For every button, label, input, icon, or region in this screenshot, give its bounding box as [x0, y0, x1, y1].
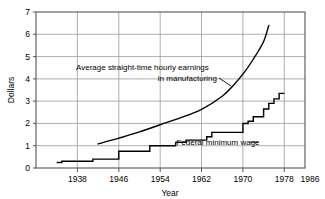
xtick-label-1970: 1970: [233, 174, 252, 184]
earnings-annotation-line1: Average straight-time hourly earnings: [76, 63, 209, 72]
ytick-label-6: 6: [25, 29, 30, 39]
ytick-label-7: 7: [25, 7, 30, 17]
xtick-label-1986: 1986: [301, 174, 320, 184]
xtick-label-1946: 1946: [109, 174, 128, 184]
minimum-wage-annotation: Federal minimum wage: [176, 138, 260, 147]
xtick-label-1962: 1962: [192, 174, 211, 184]
ytick-label-4: 4: [25, 74, 30, 84]
ytick-label-5: 5: [25, 52, 30, 62]
minimum-wage-annotation-text: Federal minimum wage: [176, 138, 260, 147]
earnings-annotation-line2: in manufacturing: [158, 74, 217, 83]
xtick-label-1978: 1978: [275, 174, 294, 184]
x-axis-title: Year: [161, 188, 178, 198]
chart-container: 0 1 2 3 4 5 6 7 1938 1946 1954 1962 1970…: [0, 0, 325, 199]
xtick-label-1938: 1938: [68, 174, 87, 184]
chart-svg: 0 1 2 3 4 5 6 7 1938 1946 1954 1962 1970…: [0, 0, 325, 199]
ytick-label-2: 2: [25, 118, 30, 128]
xtick-label-1954: 1954: [151, 174, 170, 184]
ytick-label-3: 3: [25, 96, 30, 106]
ytick-label-0: 0: [25, 163, 30, 173]
y-axis-title: Dollars: [6, 77, 16, 103]
ytick-label-1: 1: [25, 141, 30, 151]
